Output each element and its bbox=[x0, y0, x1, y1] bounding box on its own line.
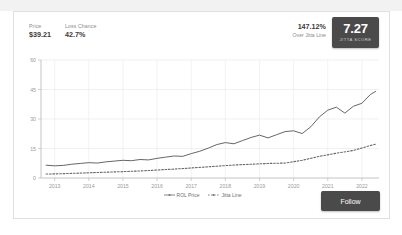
legend-item-rol-price[interactable]: ROL Price bbox=[164, 192, 200, 198]
x-axis-tick-label: 2013 bbox=[49, 183, 61, 189]
header-right: 147.12% Over Jitta Line 7.27 JITTA SCORE bbox=[293, 17, 379, 48]
y-axis-tick-label: 15 bbox=[30, 146, 36, 152]
stock-chart-card: Price $39.21 Loss Chance 42.7% 147.12% O… bbox=[13, 11, 390, 219]
jitta-score-caption: JITTA SCORE bbox=[339, 37, 371, 43]
legend-label-jitta-line: Jitta Line bbox=[221, 192, 241, 198]
over-jitta-line-label: Over Jitta Line bbox=[293, 31, 326, 39]
y-axis-tick-label: 0 bbox=[33, 175, 36, 181]
x-axis-tick-label: 2018 bbox=[220, 183, 232, 189]
stat-price: Price $39.21 bbox=[29, 23, 51, 39]
chart-card-screen: Price $39.21 Loss Chance 42.7% 147.12% O… bbox=[0, 0, 402, 235]
legend-dotted-line-icon bbox=[208, 192, 219, 198]
stat-loss-chance-label: Loss Chance bbox=[65, 23, 96, 30]
stat-loss-chance: Loss Chance 42.7% bbox=[65, 23, 96, 39]
stat-price-value: $39.21 bbox=[29, 30, 51, 39]
follow-button[interactable]: Follow bbox=[321, 191, 380, 211]
stat-price-label: Price bbox=[29, 23, 51, 30]
jitta-score-badge[interactable]: 7.27 JITTA SCORE bbox=[332, 17, 379, 48]
y-axis-tick-label: 60 bbox=[30, 57, 36, 63]
x-axis-tick-label: 2021 bbox=[322, 183, 334, 189]
top-strip bbox=[0, 0, 402, 11]
x-axis-tick-label: 2016 bbox=[151, 183, 163, 189]
x-axis-tick-label: 2017 bbox=[185, 183, 197, 189]
over-jitta-line-block: 147.12% Over Jitta Line bbox=[293, 17, 326, 39]
legend-label-rol-price: ROL Price bbox=[177, 192, 200, 198]
x-axis-tick-label: 2022 bbox=[356, 183, 368, 189]
y-axis-tick-label: 45 bbox=[30, 87, 36, 93]
header-stats: Price $39.21 Loss Chance 42.7% bbox=[29, 23, 96, 39]
over-jitta-line-percent: 147.12% bbox=[298, 22, 326, 31]
x-axis-tick-label: 2019 bbox=[254, 183, 266, 189]
x-axis-tick-label: 2014 bbox=[83, 183, 95, 189]
series-line-rol-price bbox=[46, 91, 375, 165]
legend-item-jitta-line[interactable]: Jitta Line bbox=[208, 192, 241, 198]
jitta-score-value: 7.27 bbox=[343, 22, 368, 36]
price-chart[interactable]: 0153045602013201420152016201720182019202… bbox=[19, 54, 385, 194]
chart-svg: 0153045602013201420152016201720182019202… bbox=[19, 54, 385, 194]
x-axis-tick-label: 2015 bbox=[117, 183, 129, 189]
y-axis-tick-label: 30 bbox=[30, 116, 36, 122]
x-axis-tick-label: 2020 bbox=[288, 183, 300, 189]
stat-loss-chance-value: 42.7% bbox=[65, 30, 96, 39]
legend-solid-line-icon bbox=[164, 192, 175, 198]
